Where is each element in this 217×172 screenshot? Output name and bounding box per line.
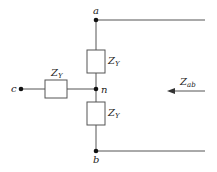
impedance-top — [87, 50, 105, 73]
label-n: n — [101, 84, 107, 95]
label-c: c — [11, 83, 17, 94]
impedance-left — [45, 80, 67, 98]
label-a: a — [93, 5, 99, 16]
node-n — [94, 87, 99, 92]
node-b — [94, 149, 99, 154]
zab-arrowhead-icon — [167, 88, 175, 94]
label-zab: Zab — [179, 76, 196, 89]
node-a — [94, 18, 99, 23]
label-impedance-top: ZY — [107, 55, 121, 68]
label-impedance-left: ZY — [50, 67, 64, 80]
label-impedance-bottom: ZY — [107, 107, 121, 120]
y-network-diagram: a n c b ZY ZY ZY Zab — [0, 0, 217, 172]
label-b: b — [93, 154, 99, 165]
impedance-bottom — [87, 102, 105, 125]
node-c — [19, 87, 24, 92]
